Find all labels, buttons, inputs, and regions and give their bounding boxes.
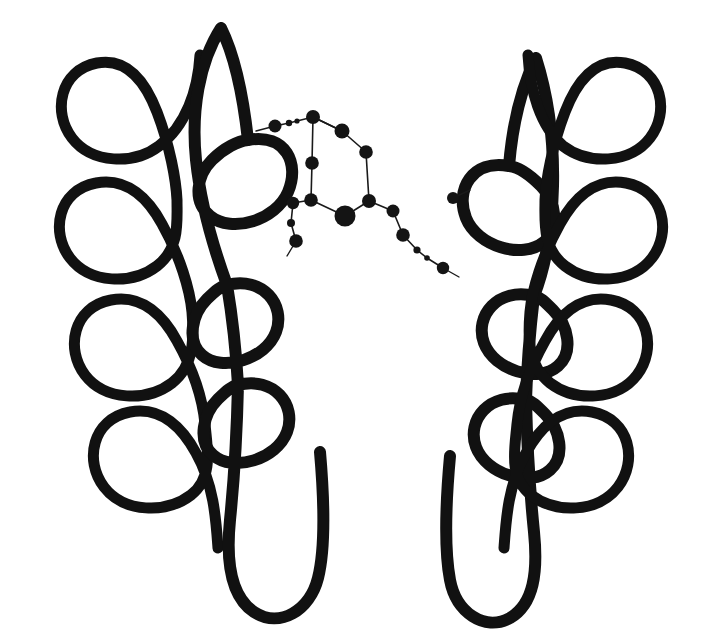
atom-a5 xyxy=(335,124,350,139)
atom-a6 xyxy=(359,145,373,159)
atom-a1 xyxy=(269,120,282,133)
atom-a18 xyxy=(437,262,449,274)
atom-a7 xyxy=(305,156,319,170)
atom-a11 xyxy=(287,197,299,209)
atom-a16 xyxy=(413,246,420,253)
atom-a10 xyxy=(335,206,356,227)
atom-a17 xyxy=(424,255,430,261)
structure-figure xyxy=(0,0,720,634)
atom-a12 xyxy=(287,219,295,227)
atom-a8 xyxy=(304,193,318,207)
atom-a14 xyxy=(387,205,400,218)
atom-a4 xyxy=(306,110,320,124)
atom-a9 xyxy=(362,194,376,208)
figure-canvas xyxy=(0,0,720,634)
figure-background xyxy=(0,0,720,634)
atom-a19 xyxy=(447,192,459,204)
atom-a2 xyxy=(286,120,292,126)
atom-a3 xyxy=(294,118,299,123)
atom-a15 xyxy=(396,228,410,242)
atom-a13 xyxy=(289,234,303,248)
